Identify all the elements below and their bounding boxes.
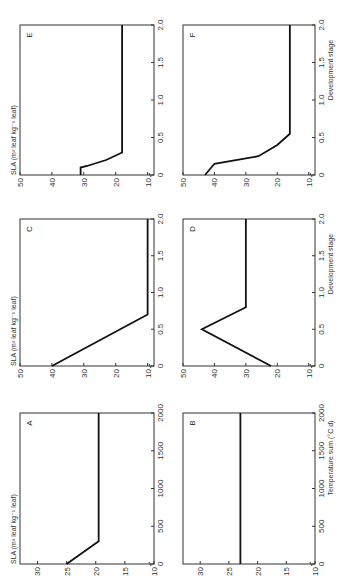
y-tick-label: 10 — [150, 566, 159, 575]
y-tick-label: 30 — [242, 368, 251, 377]
y-tick-label: 10 — [144, 177, 153, 186]
x-tick-label: 2.0 — [317, 19, 326, 31]
y-tick-label: 20 — [92, 566, 101, 575]
panel-f: 102030405000.51.01.52.0FDevelopment stag… — [179, 19, 335, 187]
y-tick-label: 40 — [210, 177, 219, 186]
sla-line — [81, 25, 122, 175]
y-tick-label: 20 — [112, 177, 121, 186]
y-tick-label: 50 — [16, 368, 25, 377]
x-tick-label: 1500 — [317, 441, 326, 459]
y-tick-label: 10 — [305, 368, 314, 377]
sla-line — [205, 25, 290, 175]
panel-label: A — [25, 420, 34, 426]
x-tick-label: 0 — [317, 363, 326, 368]
y-tick-label: 40 — [48, 368, 57, 377]
panel-c: 102030405000.51.01.52.0CSLA (m² leaf kg⁻… — [10, 213, 165, 378]
x-tick-label: 1.0 — [156, 94, 165, 106]
panel-label: E — [25, 32, 34, 37]
y-tick-label: 20 — [273, 177, 282, 186]
x-tick-label: 1.5 — [156, 250, 165, 262]
x-tick-label: 0 — [156, 561, 165, 566]
plot-frame — [183, 219, 315, 366]
y-tick-label: 40 — [48, 177, 57, 186]
y-tick-label: 20 — [112, 368, 121, 377]
sla-line — [202, 219, 271, 366]
y-tick-label: 30 — [80, 368, 89, 377]
x-tick-label: 1000 — [317, 479, 326, 497]
x-tick-label: 2000 — [317, 404, 326, 422]
y-axis-title: SLA (m² leaf kg⁻¹ leaf) — [10, 296, 18, 366]
x-tick-label: 2.0 — [317, 213, 326, 225]
x-tick-label: 1.0 — [156, 286, 165, 298]
panel-b: 10152025300500100015002000BTemperature s… — [183, 404, 335, 576]
sla-figure: 10152025300500100015002000ASLA (m² leaf … — [0, 0, 347, 587]
plot-frame — [20, 25, 154, 175]
y-tick-label: 15 — [121, 566, 130, 575]
panel-e: 102030405000.51.01.52.0ESLA (m² leaf kg⁻… — [10, 19, 165, 187]
y-tick-label: 25 — [225, 566, 234, 575]
x-tick-label: 0 — [317, 172, 326, 177]
x-axis-title: Development stage — [327, 234, 335, 294]
x-tick-label: 1.0 — [317, 94, 326, 106]
y-tick-label: 10 — [144, 368, 153, 377]
x-tick-label: 0.5 — [317, 323, 326, 335]
panel-a: 10152025300500100015002000ASLA (m² leaf … — [10, 404, 165, 576]
y-tick-label: 50 — [179, 368, 188, 377]
x-tick-label: 1500 — [156, 441, 165, 459]
x-tick-label: 0.5 — [156, 323, 165, 335]
y-tick-label: 50 — [179, 177, 188, 186]
x-tick-label: 1.5 — [317, 250, 326, 262]
x-tick-label: 0.5 — [317, 131, 326, 143]
y-tick-label: 20 — [273, 368, 282, 377]
x-tick-label: 1.5 — [156, 56, 165, 68]
x-tick-label: 2.0 — [156, 213, 165, 225]
y-tick-label: 10 — [305, 177, 314, 186]
x-tick-label: 500 — [156, 519, 165, 533]
panel-label: B — [188, 420, 197, 425]
y-tick-label: 50 — [16, 177, 25, 186]
panel-label: C — [25, 226, 34, 232]
panel-label: F — [188, 32, 197, 37]
plot-frame — [20, 219, 154, 366]
panel-d: 102030405000.51.01.52.0DDevelopment stag… — [179, 213, 335, 378]
plot-frame — [20, 413, 154, 564]
y-tick-label: 30 — [80, 177, 89, 186]
x-tick-label: 0.5 — [156, 131, 165, 143]
x-tick-label: 0 — [156, 172, 165, 177]
y-axis-title: SLA (m² leaf kg⁻¹ leaf) — [10, 105, 18, 175]
panel-label: D — [188, 226, 197, 232]
y-tick-label: 40 — [210, 368, 219, 377]
y-tick-label: 30 — [33, 566, 42, 575]
sla-line — [52, 219, 148, 366]
sla-line — [67, 413, 99, 564]
y-tick-label: 30 — [196, 566, 205, 575]
x-tick-label: 1000 — [156, 479, 165, 497]
y-tick-label: 30 — [242, 177, 251, 186]
y-axis-title: SLA (m² leaf kg⁻¹ leaf) — [10, 494, 18, 564]
x-tick-label: 0 — [156, 363, 165, 368]
x-tick-label: 2000 — [156, 404, 165, 422]
x-tick-label: 0 — [317, 561, 326, 566]
x-axis-title: Development stage — [327, 40, 335, 100]
plot-frame — [183, 413, 315, 564]
y-tick-label: 25 — [63, 566, 72, 575]
y-tick-label: 15 — [282, 566, 291, 575]
x-tick-label: 1.0 — [317, 286, 326, 298]
y-tick-label: 20 — [254, 566, 263, 575]
y-tick-label: 10 — [311, 566, 320, 575]
x-tick-label: 2.0 — [156, 19, 165, 31]
x-axis-title: Temperature sum (°C d) — [327, 421, 335, 496]
x-tick-label: 1.5 — [317, 56, 326, 68]
plot-frame — [183, 25, 315, 175]
x-tick-label: 500 — [317, 519, 326, 533]
